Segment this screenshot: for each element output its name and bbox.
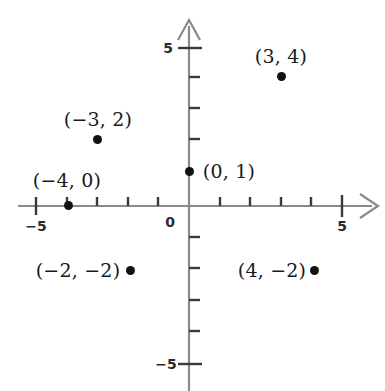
coordinate-plane-chart: −5 0 5 5 −5 (3, 4) (−3, 2) (0, 1) (−4, 0… (0, 0, 385, 391)
data-point-label-0-1: (0, 1) (203, 162, 255, 181)
data-point-0-1[interactable] (185, 167, 194, 176)
data-point-label-minus4-0: (−4, 0) (33, 171, 101, 190)
x-axis-label-plus-five: 5 (337, 219, 347, 233)
data-point-minus4-0[interactable] (64, 201, 73, 210)
y-axis-label-plus-five: 5 (163, 41, 173, 55)
origin-label: 0 (165, 215, 175, 229)
y-axis-label-minus-five: −5 (155, 357, 176, 371)
data-point-label-3-4: (3, 4) (255, 47, 307, 66)
data-point-3-4[interactable] (277, 72, 286, 81)
data-point-4-minus2[interactable] (310, 266, 319, 275)
data-point-label-minus2-minus2: (−2, −2) (36, 261, 121, 280)
data-point-minus3-2[interactable] (93, 135, 102, 144)
axes-group (0, 0, 385, 391)
data-point-label-4-minus2: (4, −2) (238, 261, 306, 280)
x-axis-label-minus-five: −5 (25, 219, 46, 233)
data-point-minus2-minus2[interactable] (126, 266, 135, 275)
data-point-label-minus3-2: (−3, 2) (64, 110, 132, 129)
